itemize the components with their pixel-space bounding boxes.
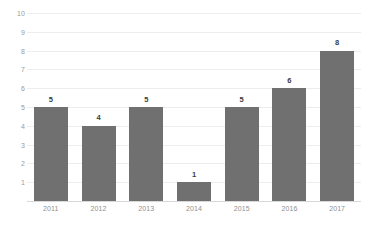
bar-chart: 10987654321 5201142012520131201452015620… (0, 0, 379, 232)
bar-value-label: 4 (77, 114, 121, 122)
x-axis-tick-label: 2012 (77, 205, 121, 212)
bar-group[interactable]: 8 (315, 0, 359, 201)
x-axis-tick-label: 2014 (172, 205, 216, 212)
bar[interactable] (272, 88, 306, 201)
bar-value-label: 5 (124, 96, 168, 104)
bar-group[interactable]: 6 (267, 0, 311, 201)
bar-group[interactable]: 5 (29, 0, 73, 201)
bar-value-label: 8 (315, 39, 359, 47)
bar-value-label: 1 (172, 171, 216, 179)
bar[interactable] (34, 107, 68, 201)
bar-group[interactable]: 1 (172, 0, 216, 201)
bar[interactable] (320, 51, 354, 201)
bar-group[interactable]: 5 (220, 0, 264, 201)
bar[interactable] (225, 107, 259, 201)
bar[interactable] (129, 107, 163, 201)
bar-group[interactable]: 4 (77, 0, 121, 201)
x-axis-tick-label: 2017 (315, 205, 359, 212)
bar[interactable] (82, 126, 116, 201)
bar[interactable] (177, 182, 211, 201)
bars-layer: 52011420125201312014520156201682017 (0, 0, 379, 232)
x-axis-tick-label: 2016 (267, 205, 311, 212)
bar-value-label: 5 (29, 96, 73, 104)
x-axis-tick-label: 2013 (124, 205, 168, 212)
x-axis-tick-label: 2011 (29, 205, 73, 212)
bar-value-label: 5 (220, 96, 264, 104)
bar-group[interactable]: 5 (124, 0, 168, 201)
x-axis-tick-label: 2015 (220, 205, 264, 212)
bar-value-label: 6 (267, 77, 311, 85)
